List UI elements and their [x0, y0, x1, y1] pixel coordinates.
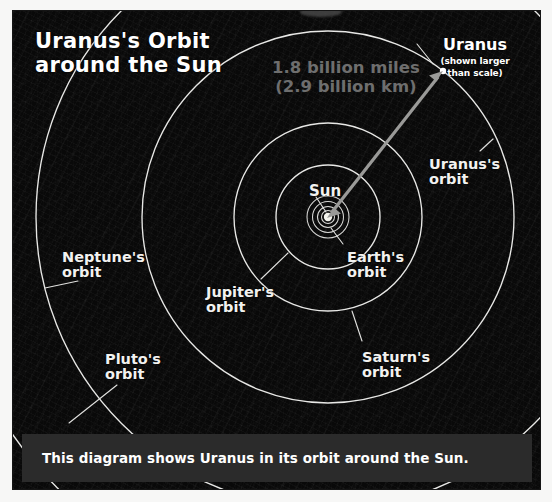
- earth-orbit-line-1: Earth's: [347, 249, 404, 265]
- distance-line-2: (2.9 billion km): [272, 78, 420, 97]
- title-line-2: around the Sun: [35, 54, 222, 78]
- page-title: Uranus's Orbit around the Sun: [35, 30, 222, 77]
- diagram-panel: Uranus's Orbit around the Sun 1.8 billio…: [13, 11, 540, 489]
- figure-root: Uranus's Orbit around the Sun 1.8 billio…: [0, 0, 552, 502]
- jupiter-orbit-line-1: Jupiter's: [206, 284, 274, 300]
- uranus-planet-name: Uranus: [443, 35, 507, 54]
- leader-jupiter-orbit: [261, 253, 288, 279]
- distance-line-1: 1.8 billion miles: [272, 58, 420, 77]
- saturn-orbit-label: Saturn's orbit: [362, 350, 430, 381]
- jupiter-orbit-label: Jupiter's orbit: [206, 285, 274, 316]
- distance-annotation: 1.8 billion miles (2.9 billion km): [272, 59, 420, 97]
- pluto-orbit-label: Pluto's orbit: [105, 352, 161, 383]
- uranus-planet-label: Uranus(shown largerthan scale): [425, 37, 525, 79]
- caption-bar: This diagram shows Uranus in its orbit a…: [22, 434, 532, 482]
- caption-text: This diagram shows Uranus in its orbit a…: [22, 450, 469, 466]
- leader-uranus-orbit: [480, 139, 493, 151]
- saturn-orbit-line-1: Saturn's: [362, 349, 430, 365]
- neptune-orbit-line-1: Neptune's: [62, 249, 145, 265]
- earth-orbit-label: Earth's orbit: [347, 250, 404, 281]
- leader-earth-orbit: [331, 228, 343, 244]
- uranus-scale-note-line-2: than scale): [425, 68, 525, 78]
- saturn-orbit-line-2: orbit: [362, 365, 430, 380]
- sun-label: Sun: [309, 184, 341, 200]
- leader-neptune-orbit: [45, 281, 78, 288]
- jupiter-orbit-line-2: orbit: [206, 300, 274, 315]
- pluto-orbit-line-1: Pluto's: [105, 351, 161, 367]
- uranus-orbit-line-1: Uranus's: [429, 156, 500, 172]
- pluto-orbit-line-2: orbit: [105, 367, 161, 382]
- neptune-orbit-line-2: orbit: [62, 265, 145, 280]
- uranus-orbit-label: Uranus's orbit: [429, 157, 500, 188]
- uranus-scale-note-line-1: (shown larger: [425, 56, 525, 66]
- earth-orbit-line-2: orbit: [347, 265, 404, 280]
- title-line-1: Uranus's Orbit: [35, 29, 210, 53]
- uranus-orbit-line-2: orbit: [429, 172, 500, 187]
- neptune-orbit-label: Neptune's orbit: [62, 250, 145, 281]
- leader-saturn-orbit: [352, 311, 362, 341]
